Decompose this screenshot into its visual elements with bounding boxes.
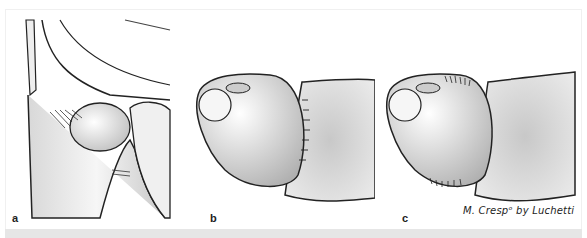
panel-a-illustration	[0, 0, 175, 230]
illustration-credit: M. Crespᵒ by Luchetti	[463, 205, 574, 216]
bottom-bar	[5, 229, 582, 238]
panel-c-label: c	[402, 212, 408, 224]
panel-b-label: b	[210, 212, 217, 224]
panel-c: c	[370, 0, 580, 230]
panel-b-illustration	[180, 0, 375, 230]
panel-c-illustration	[370, 0, 580, 230]
panel-a: a	[0, 0, 175, 230]
panel-a-label: a	[12, 212, 18, 224]
panel-b: b	[180, 0, 375, 230]
